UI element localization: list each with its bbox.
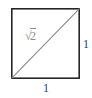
diagonal-line xyxy=(12,9,79,78)
geometry-figure: √2 1 1 xyxy=(0,0,92,98)
hypotenuse-length-label: √2 xyxy=(25,30,36,42)
bottom-side-length-label: 1 xyxy=(43,82,49,94)
right-side-length-label: 1 xyxy=(83,38,89,50)
radicand-value: 2 xyxy=(30,28,36,43)
